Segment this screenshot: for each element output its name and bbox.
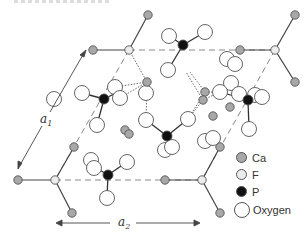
ca-atom-icon	[89, 46, 97, 54]
oxygen-atom-icon	[228, 57, 243, 72]
oxygen-atom-icon	[75, 86, 90, 101]
f-atom-icon	[51, 176, 59, 184]
ca-atom-icon	[216, 143, 224, 151]
oxygen-atom-icon	[161, 63, 176, 78]
ca-atom-icon	[201, 88, 209, 96]
f-atom-icon	[236, 169, 247, 180]
legend-label: Ca	[252, 152, 266, 164]
oxygen-atom-icon	[113, 91, 128, 106]
legend-item-oxygen: Oxygen	[236, 200, 291, 220]
ca-atom-icon	[68, 209, 76, 217]
legend: Ca F P Oxygen	[236, 149, 291, 220]
p-atom-icon	[236, 186, 247, 197]
legend-item-ca: Ca	[236, 149, 291, 166]
p-atom-icon	[162, 131, 172, 141]
legend-item-f: F	[236, 166, 291, 183]
oxygen-atom-icon	[181, 112, 196, 127]
oxygen-atom-icon	[162, 29, 177, 44]
ca-atom-icon	[14, 176, 22, 184]
oxygen-atom-icon	[139, 113, 154, 128]
oxygen-atom-icon	[100, 191, 115, 206]
ca-atom-icon	[236, 152, 247, 163]
p-atom-icon	[178, 40, 188, 50]
ca-atom-icon	[70, 143, 78, 151]
oxygen-atom-icon	[255, 90, 270, 105]
f-atom-icon	[125, 46, 133, 54]
oxygen-atom-icon	[234, 202, 250, 218]
ca-atom-icon	[125, 130, 133, 138]
a1-axis-label: a1	[40, 112, 52, 128]
ca-atom-icon	[291, 78, 299, 86]
ca-atom-icon	[199, 96, 207, 104]
ca-atom-icon	[236, 46, 244, 54]
oxygen-atom-icon	[198, 25, 213, 40]
oxygen-atom-icon	[120, 155, 135, 170]
a2-axis-label: a2	[118, 215, 130, 231]
p-atom-icon	[103, 170, 113, 180]
ca-atom-icon	[216, 209, 224, 217]
p-atom-icon	[243, 95, 253, 105]
legend-label: Oxygen	[253, 204, 291, 216]
legend-item-p: P	[236, 183, 291, 200]
p-atom-icon	[99, 94, 109, 104]
ca-atom-icon	[209, 112, 217, 120]
oxygen-atom-icon	[242, 122, 257, 137]
ca-atom-icon	[226, 103, 234, 111]
oxygen-atom-icon	[165, 140, 180, 155]
oxygen-atom-icon	[139, 86, 154, 101]
f-atom-icon	[271, 46, 279, 54]
ca-atom-icon	[143, 78, 151, 86]
coordination-lines	[115, 50, 220, 120]
f-atom-icon	[198, 176, 206, 184]
oxygen-atom-icon	[213, 85, 228, 100]
ca-atom-icon	[144, 11, 152, 19]
legend-label: P	[252, 186, 259, 198]
oxygen-atom-icon	[87, 161, 102, 176]
oxygen-atom-icon	[90, 118, 105, 133]
legend-label: F	[252, 169, 259, 181]
ca-atom-icon	[291, 11, 299, 19]
ca-atom-icon	[161, 176, 169, 184]
